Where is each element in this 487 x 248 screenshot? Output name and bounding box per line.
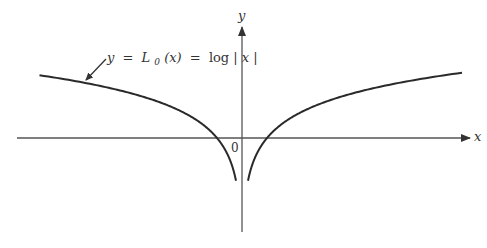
curve-left-branch (40, 75, 237, 181)
annotation-eq1: = (123, 50, 134, 65)
annotation-abs-close: | (253, 50, 257, 65)
annotation-pointer-arrow (86, 59, 106, 80)
annotation-L: L (141, 50, 151, 65)
annotation-var: x (242, 50, 250, 65)
y-axis-label: y (237, 8, 246, 23)
annotation-subscript: 0 (154, 57, 160, 67)
origin-label: 0 (231, 141, 239, 155)
log-abs-plot: y x 0 y = L 0 (x) = log | x | (0, 0, 487, 248)
annotation-abs-open: | (233, 50, 237, 65)
annotation-eq2: = (190, 50, 201, 65)
x-axis-label: x (474, 129, 482, 144)
annotation-log: log (209, 50, 229, 65)
curve-right-branch (248, 73, 462, 181)
annotation-y: y (106, 50, 115, 65)
annotation-arg: (x) (164, 50, 181, 65)
function-annotation: y = L 0 (x) = log | x | (106, 50, 258, 68)
